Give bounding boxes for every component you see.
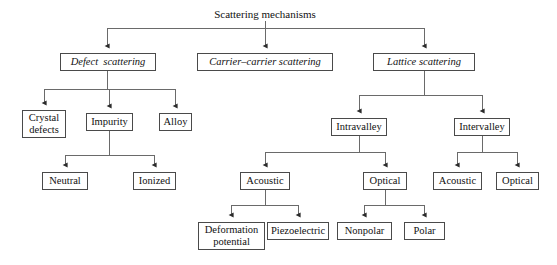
edge-impurity-to-children <box>65 131 154 165</box>
node-optical-intervalley[interactable]: Optical <box>496 172 539 190</box>
node-piezoelectric[interactable]: Piezoelectric <box>267 222 329 240</box>
scattering-mechanisms-diagram: Scattering mechanisms Defect scattering … <box>0 0 557 265</box>
edge-optical-to-children <box>364 190 424 215</box>
node-acoustic-intravalley[interactable]: Acoustic <box>240 172 290 190</box>
edge-root-to-level1 <box>107 21 424 46</box>
node-impurity[interactable]: Impurity <box>86 113 133 131</box>
edge-defect-to-children <box>44 71 175 106</box>
edge-intravalley-to-children <box>265 136 385 165</box>
node-ionized[interactable]: Ionized <box>133 172 176 190</box>
node-acoustic-intervalley[interactable]: Acoustic <box>433 172 482 190</box>
node-nonpolar[interactable]: Nonpolar <box>337 222 392 240</box>
node-lattice-scattering[interactable]: Lattice scattering <box>373 53 475 71</box>
node-deformation-potential[interactable]: Deformation potential <box>198 222 265 250</box>
node-polar[interactable]: Polar <box>404 222 445 240</box>
node-intravalley[interactable]: Intravalley <box>331 118 387 136</box>
node-neutral[interactable]: Neutral <box>42 172 88 190</box>
node-optical-intravalley[interactable]: Optical <box>363 172 407 190</box>
node-intervalley[interactable]: Intervalley <box>454 118 510 136</box>
diagram-title: Scattering mechanisms <box>192 8 338 20</box>
edge-lattice-to-children <box>359 71 482 111</box>
edge-acoustic-to-children <box>231 190 298 215</box>
edge-intervalley-to-children <box>457 136 517 165</box>
node-defect-scattering[interactable]: Defect scattering <box>60 53 156 71</box>
node-crystal-defects[interactable]: Crystal defects <box>22 110 66 138</box>
node-alloy[interactable]: Alloy <box>159 113 192 131</box>
node-carrier-carrier-scattering[interactable]: Carrier–carrier scattering <box>197 53 333 71</box>
